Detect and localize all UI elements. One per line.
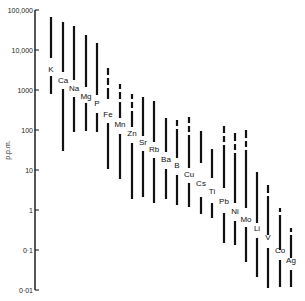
element-label: Ba	[161, 155, 171, 164]
element-bar-k: K	[48, 17, 54, 94]
element-label: Mo	[240, 215, 252, 224]
element-bar-ni: Ni	[231, 133, 239, 245]
element-label: Ti	[209, 187, 216, 196]
element-label: Cs	[196, 179, 206, 188]
element-label: Ni	[231, 207, 239, 216]
element-label: Mn	[114, 120, 125, 129]
element-bar-pb: Pb	[219, 126, 229, 243]
element-label: K	[48, 65, 54, 74]
concentration-bars: KCaNaMgPFeMnZnSrRbBaBCuCsTiPbNiMoLiVCoAg	[48, 17, 296, 288]
element-label: Rb	[149, 145, 160, 154]
element-label: Ca	[58, 76, 69, 85]
element-label: V	[265, 233, 271, 242]
y-axis: 100,00010,00010001001010·10·01p.p.m.	[4, 7, 39, 294]
element-bar-cs: Cs	[196, 131, 206, 214]
y-axis-label: p.p.m.	[4, 140, 12, 160]
y-tick-label: 100	[21, 127, 33, 134]
element-bar-na: Na	[69, 26, 80, 132]
element-bar-mg: Mg	[80, 35, 91, 131]
y-tick-label: 10	[25, 167, 33, 174]
y-tick-label: 100,000	[8, 7, 33, 14]
element-label: P	[94, 99, 99, 108]
y-tick-label: 1000	[17, 87, 33, 94]
element-bar-rb: Rb	[149, 101, 160, 203]
y-tick-label: 10,000	[12, 47, 34, 54]
y-tick-label: 0·01	[19, 287, 33, 294]
element-bar-mo: Mo	[240, 130, 252, 262]
element-bar-cu: Cu	[184, 117, 194, 207]
element-label: Ag	[286, 256, 296, 265]
element-concentration-chart: 100,00010,00010001001010·10·01p.p.m. KCa…	[0, 0, 305, 301]
element-label: Co	[275, 246, 286, 255]
element-bar-fe: Fe	[103, 68, 113, 169]
element-bar-sr: Sr	[139, 97, 147, 197]
element-label: Li	[254, 224, 260, 233]
element-label: Sr	[139, 138, 147, 147]
element-bar-li: Li	[254, 172, 260, 277]
element-label: B	[174, 161, 179, 170]
y-tick-label: 0·1	[23, 247, 33, 254]
element-bar-b: B	[174, 120, 179, 205]
element-bar-p: P	[94, 43, 99, 132]
y-tick-label: 1	[29, 207, 33, 214]
element-bar-ti: Ti	[209, 149, 216, 218]
element-bar-co: Co	[275, 208, 286, 287]
element-label: Zn	[127, 129, 136, 138]
element-label: Mg	[80, 92, 91, 101]
element-label: Na	[69, 84, 80, 93]
element-bar-zn: Zn	[127, 94, 136, 199]
element-bar-ag: Ag	[286, 228, 296, 287]
element-bar-ba: Ba	[161, 118, 171, 199]
element-bar-mn: Mn	[114, 84, 125, 179]
element-label: Cu	[184, 170, 194, 179]
element-label: Pb	[219, 197, 229, 206]
element-bar-v: V	[265, 185, 271, 288]
element-label: Fe	[103, 110, 113, 119]
element-bar-ca: Ca	[58, 22, 69, 151]
